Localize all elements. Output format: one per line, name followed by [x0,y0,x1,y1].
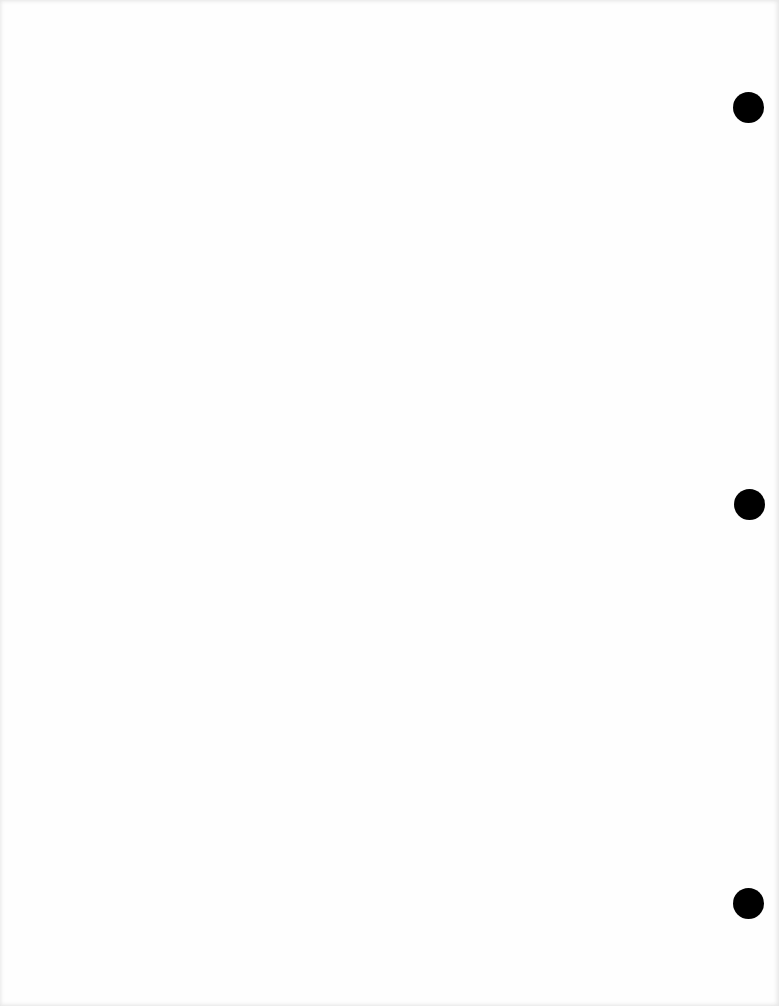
punch-hole-icon [733,888,764,919]
blank-scanned-page [0,0,779,1006]
punch-hole-icon [733,92,764,123]
punch-hole-icon [734,489,765,520]
